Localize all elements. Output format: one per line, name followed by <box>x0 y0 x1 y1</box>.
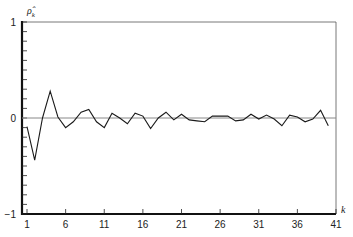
y-axis-title-sub: k <box>32 11 36 19</box>
x-axis-title: k <box>341 204 346 215</box>
x-tick-label: 11 <box>99 219 110 230</box>
x-tick-label: 1 <box>24 219 30 230</box>
x-axis-labels: 1611162126313641 <box>24 219 342 230</box>
autocorrelation-chart: 10−1 1611162126313641 ρ̂k k <box>0 0 353 237</box>
y-tick-label: −1 <box>5 209 17 220</box>
x-tick-label: 36 <box>292 219 304 230</box>
acf-series-line <box>27 91 328 160</box>
x-tick-label: 41 <box>330 219 342 230</box>
y-tick-label: 0 <box>10 113 16 124</box>
x-tick-label: 16 <box>137 219 149 230</box>
y-axis-labels: 10−1 <box>5 17 17 220</box>
x-tick-label: 21 <box>176 219 188 230</box>
x-tick-label: 31 <box>253 219 265 230</box>
y-tick-label: 1 <box>10 17 16 28</box>
y-axis-title: ρ̂k <box>26 5 36 19</box>
x-tick-label: 6 <box>63 219 69 230</box>
x-tick-label: 26 <box>215 219 227 230</box>
